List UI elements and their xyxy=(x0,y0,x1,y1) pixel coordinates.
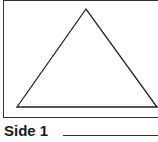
answer-line[interactable] xyxy=(63,135,158,136)
triangle-figure xyxy=(0,0,158,142)
side-label: Side 1 xyxy=(4,123,48,139)
